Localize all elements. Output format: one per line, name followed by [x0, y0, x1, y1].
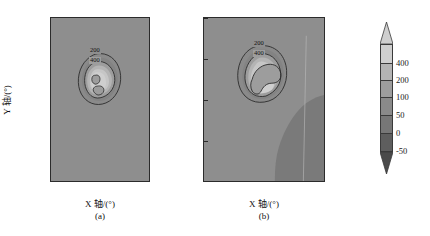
- colorbar-tick-400: [380, 63, 393, 64]
- colorbar-tick-0: [380, 133, 393, 134]
- x-tick-b-3: [294, 181, 295, 182]
- y-tick-b-0: [204, 18, 208, 19]
- colorbar-label-neg50: -50: [396, 146, 407, 156]
- contour-label-200-b: 200: [253, 40, 265, 47]
- colorbar-cap-top: [380, 22, 393, 44]
- colorbar-label-0: 0: [396, 128, 400, 138]
- colorbar-band-400: [381, 45, 392, 64]
- y-tick-a-3: [50, 141, 51, 142]
- y-tick-b-3: [204, 141, 208, 142]
- y-tick-b-2: [204, 100, 208, 101]
- panel-caption-b: (b): [203, 211, 325, 221]
- y-tick-a-1: [50, 59, 51, 60]
- x-tick-a-1: [75, 181, 76, 182]
- colorbar-label-100: 100: [396, 92, 409, 102]
- contour-label-400-a: 400: [89, 57, 101, 64]
- x-tick-a-2: [100, 181, 101, 182]
- colorbar-tick-200: [380, 80, 393, 81]
- plot-area-a: 200 400 2 1 0 -1 -2 -2 -1 0 1 2: [50, 17, 150, 182]
- colorbar-label-50: 50: [396, 110, 405, 120]
- colorbar: 400 200 100 50 0 -50: [378, 22, 430, 182]
- y-tick-b-1: [204, 59, 208, 60]
- colorbar-tick-neg50: [380, 151, 393, 152]
- colorbar-band-neg50: [381, 134, 392, 151]
- x-tick-b-0: [204, 181, 205, 182]
- x-tick-a-3: [125, 181, 126, 182]
- contour-label-400-b: 400: [253, 50, 265, 57]
- panel-caption-a: (a): [50, 211, 150, 221]
- figure-contour-pair: Y 轴/(°): [0, 0, 430, 236]
- colorbar-band-50: [381, 98, 392, 116]
- x-axis-title-a: X 轴/(°): [50, 197, 150, 210]
- colorbar-gradient: [380, 44, 393, 152]
- colorbar-cap-bottom: [380, 152, 393, 174]
- x-tick-b-2: [264, 181, 265, 182]
- colorbar-tick-100: [380, 97, 393, 98]
- colorbar-band-0: [381, 116, 392, 134]
- plot-area-b: 200 400 -2 -1 0 1 2: [203, 17, 325, 182]
- contour-label-200-a: 200: [89, 47, 101, 54]
- y-axis-title-a: Y 轴/(°): [0, 85, 13, 115]
- x-tick-b-1: [234, 181, 235, 182]
- colorbar-tick-50: [380, 115, 393, 116]
- colorbar-band-200: [381, 64, 392, 81]
- x-tick-b-4: [324, 181, 325, 182]
- panel-a: Y 轴/(°): [0, 0, 160, 236]
- contour-plot-a: [51, 18, 149, 181]
- y-tick-a-0: [50, 18, 51, 19]
- y-tick-a-4: [50, 181, 51, 182]
- x-tick-a-4: [149, 181, 150, 182]
- panel-b: 200 400 -2 -1 0 1 2 X 轴/(°) (b): [170, 0, 330, 236]
- y-tick-a-2: [50, 100, 51, 101]
- colorbar-label-400: 400: [396, 58, 409, 68]
- x-tick-a-0: [51, 181, 52, 182]
- y-tick-b-4: [204, 181, 208, 182]
- colorbar-band-100: [381, 81, 392, 98]
- colorbar-label-200: 200: [396, 75, 409, 85]
- x-axis-title-b: X 轴/(°): [203, 197, 325, 210]
